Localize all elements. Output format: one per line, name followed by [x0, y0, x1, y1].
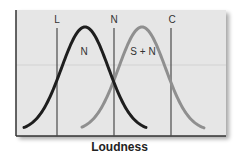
noise-curve-label: N — [80, 46, 87, 57]
signal-detection-figure: L N C N S + N Loudness — [0, 0, 239, 157]
criterion-label-n: N — [110, 14, 117, 25]
criterion-label-c: C — [168, 14, 175, 25]
signal-curve-label: S + N — [130, 46, 155, 57]
plot-svg: L N C N S + N — [0, 0, 239, 157]
x-axis-label: Loudness — [0, 140, 239, 154]
plot-area — [16, 10, 226, 136]
criterion-label-l: L — [54, 14, 60, 25]
